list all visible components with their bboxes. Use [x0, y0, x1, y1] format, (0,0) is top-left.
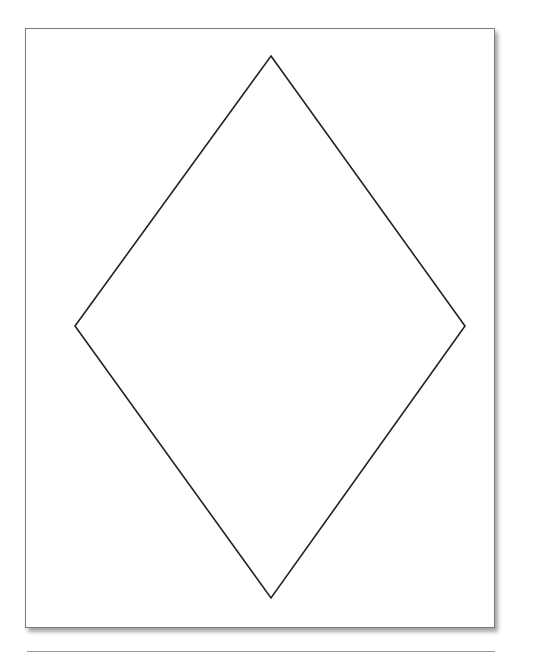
rhombus-shape[interactable]: [75, 56, 465, 598]
bottom-divider: [27, 651, 495, 652]
diagram-canvas: [0, 0, 544, 660]
